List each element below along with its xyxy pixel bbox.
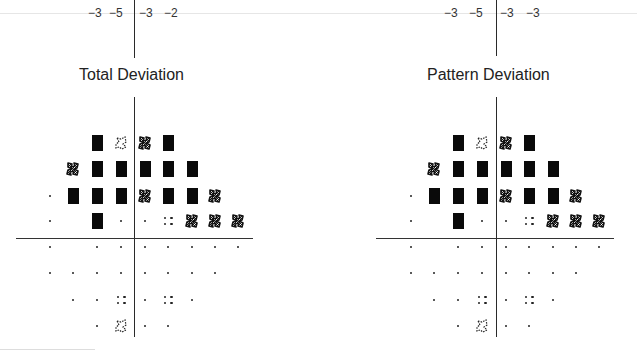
field-point — [158, 316, 178, 336]
field-point — [135, 159, 155, 179]
solid-block-symbol-icon — [477, 188, 488, 204]
dot-symbol-icon — [120, 272, 122, 274]
dot-symbol-icon — [410, 195, 412, 197]
dot-symbol-icon — [410, 246, 412, 248]
dark-hatch-symbol-icon — [184, 213, 200, 229]
field-point — [496, 290, 516, 310]
field-point — [472, 316, 492, 336]
field-point — [135, 133, 155, 153]
field-point — [401, 237, 421, 257]
dot-symbol-icon — [505, 299, 507, 301]
dark-hatch-symbol-icon — [498, 188, 514, 204]
top-value: −5 — [109, 6, 123, 20]
dot-symbol-icon — [96, 246, 98, 248]
dot-symbol-icon — [96, 299, 98, 301]
field-point — [158, 263, 178, 283]
solid-block-symbol-icon — [163, 188, 174, 204]
dot-symbol-icon — [49, 246, 51, 248]
field-point — [135, 263, 155, 283]
field-point — [472, 186, 492, 206]
dot-symbol-icon — [505, 220, 507, 222]
dot-symbol-icon — [72, 299, 74, 301]
field-point — [519, 290, 539, 310]
field-point — [424, 159, 444, 179]
field-point — [566, 237, 586, 257]
field-point — [472, 263, 492, 283]
dark-hatch-symbol-icon — [498, 135, 514, 151]
dot-symbol-icon — [144, 325, 146, 327]
dot-symbol-icon — [481, 246, 483, 248]
solid-block-symbol-icon — [187, 161, 198, 177]
solid-block-symbol-icon — [524, 188, 535, 204]
field-point — [87, 316, 107, 336]
field-point — [496, 211, 516, 231]
field-point — [111, 263, 131, 283]
solid-block-symbol-icon — [453, 213, 464, 229]
field-point — [182, 290, 202, 310]
solid-block-symbol-icon — [116, 188, 127, 204]
field-point — [205, 211, 225, 231]
field-point — [472, 211, 492, 231]
field-point — [182, 263, 202, 283]
solid-block-symbol-icon — [116, 161, 127, 177]
dark-hatch-symbol-icon — [426, 161, 442, 177]
dot-symbol-icon — [72, 272, 74, 274]
dot-symbol-icon — [505, 246, 507, 248]
field-point — [424, 186, 444, 206]
field-point — [87, 159, 107, 179]
field-point — [135, 290, 155, 310]
dot-symbol-icon — [144, 272, 146, 274]
field-point — [472, 237, 492, 257]
dot-symbol-icon — [457, 272, 459, 274]
field-point — [543, 159, 563, 179]
dark-hatch-symbol-icon — [568, 213, 584, 229]
dark-hatch-symbol-icon — [545, 213, 561, 229]
dot-symbol-icon — [481, 272, 483, 274]
solid-block-symbol-icon — [453, 188, 464, 204]
field-point — [543, 186, 563, 206]
dot-symbol-icon — [214, 246, 216, 248]
top-value: −3 — [88, 6, 102, 20]
solid-block-symbol-icon — [163, 135, 174, 151]
field-point — [111, 316, 131, 336]
field-point — [63, 263, 83, 283]
field-point — [424, 290, 444, 310]
dot-symbol-icon — [505, 325, 507, 327]
top-value: −3 — [500, 6, 514, 20]
dot-symbol-icon — [49, 195, 51, 197]
solid-block-symbol-icon — [548, 188, 559, 204]
field-point — [228, 211, 248, 231]
field-point — [448, 133, 468, 153]
field-point — [158, 211, 178, 231]
dot-symbol-icon — [410, 272, 412, 274]
solid-block-symbol-icon — [501, 161, 512, 177]
field-point — [40, 186, 60, 206]
field-point — [205, 186, 225, 206]
top-value: −3 — [526, 6, 540, 20]
four-dot-symbol-icon — [164, 217, 173, 225]
solid-block-symbol-icon — [92, 188, 103, 204]
four-dot-symbol-icon — [117, 296, 126, 304]
field-point — [135, 211, 155, 231]
dot-symbol-icon — [528, 325, 530, 327]
field-point — [448, 290, 468, 310]
dot-symbol-icon — [505, 272, 507, 274]
field-point — [589, 211, 609, 231]
field-point — [87, 237, 107, 257]
field-point — [63, 159, 83, 179]
field-point — [111, 133, 131, 153]
field-point — [589, 237, 609, 257]
dot-symbol-icon — [167, 272, 169, 274]
field-point — [496, 186, 516, 206]
dark-hatch-symbol-icon — [207, 213, 223, 229]
field-point — [519, 211, 539, 231]
four-dot-symbol-icon — [164, 296, 173, 304]
field-point — [566, 211, 586, 231]
dot-symbol-icon — [144, 299, 146, 301]
light-hatch-symbol-icon — [474, 135, 490, 151]
dot-symbol-icon — [144, 246, 146, 248]
dark-hatch-symbol-icon — [137, 135, 153, 151]
dot-symbol-icon — [528, 246, 530, 248]
dot-symbol-icon — [575, 272, 577, 274]
field-point — [543, 211, 563, 231]
